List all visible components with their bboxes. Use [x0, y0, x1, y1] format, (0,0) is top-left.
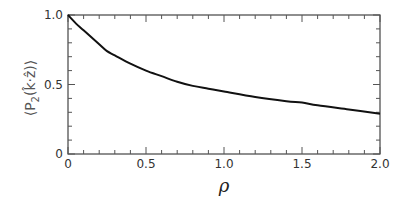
plot-border	[68, 15, 380, 154]
axis-ticks	[68, 15, 380, 154]
y-tick-label: 0	[55, 147, 63, 161]
y-label-P: P	[22, 102, 38, 110]
x-tick-labels: 00.51.01.52.0	[64, 157, 389, 171]
svg-text:⟨P2(k̂·ẑ)⟩: ⟨P2(k̂·ẑ)⟩	[22, 60, 41, 117]
x-tick-label: 0.5	[136, 157, 155, 171]
x-tick-label: 1.0	[214, 157, 233, 171]
y-axis-label: ⟨P2(k̂·ẑ)⟩	[22, 60, 41, 117]
data-curve	[68, 15, 380, 114]
y-tick-label: 1.0	[44, 8, 63, 22]
x-tick-label: 1.5	[292, 157, 311, 171]
y-label-inner: (k̂·ẑ)	[22, 65, 38, 96]
x-axis-label: ρ	[218, 175, 230, 196]
y-tick-label: 0.5	[44, 78, 63, 92]
x-tick-label: 0	[64, 157, 72, 171]
y-tick-labels: 00.51.0	[44, 8, 63, 161]
line-chart: 00.51.01.52.0 00.51.0 ρ ⟨P2(k̂·ẑ)⟩	[0, 0, 403, 202]
plot-frame	[68, 15, 380, 154]
x-tick-label: 2.0	[370, 157, 389, 171]
y-label-right-bracket: ⟩	[22, 60, 38, 65]
